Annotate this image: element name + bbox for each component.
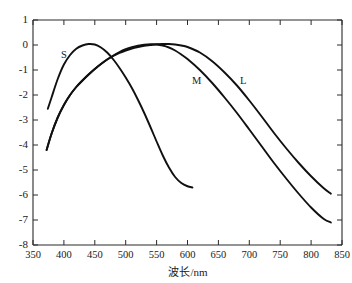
- x-tick-label: 550: [149, 249, 165, 260]
- y-tick-label: 0: [23, 38, 29, 50]
- x-tick-label: 600: [180, 249, 196, 260]
- y-tick-label: -3: [19, 113, 29, 125]
- x-tick-label: 350: [25, 249, 41, 260]
- curve-label-s: S: [61, 49, 67, 60]
- data-curves: [47, 44, 331, 223]
- y-tick-label: -4: [19, 138, 29, 150]
- axes: [33, 20, 342, 245]
- x-tick-label: 650: [211, 249, 227, 260]
- curve-l: [47, 44, 331, 194]
- x-tick-label: 500: [118, 249, 134, 260]
- curve-m: [47, 44, 331, 222]
- x-axis-title: 波长/nm: [168, 266, 208, 278]
- y-tick-label: 1: [23, 13, 29, 25]
- chart-container: 10-1-2-3-4-5-6-7-8 350400450500550600650…: [0, 0, 352, 283]
- y-tick-label: -5: [19, 163, 29, 175]
- x-tick-label: 800: [303, 249, 319, 260]
- curve-label-l: L: [240, 75, 246, 86]
- y-tick-label: -7: [19, 213, 29, 225]
- x-tick-label: 400: [56, 249, 72, 260]
- x-axis-tick-labels: 350400450500550600650700750800850: [25, 249, 350, 260]
- y-tick-label: -6: [19, 188, 29, 200]
- x-tick-label: 750: [272, 249, 288, 260]
- y-axis-tick-labels: 10-1-2-3-4-5-6-7-8: [19, 13, 29, 250]
- y-tick-label: -2: [19, 88, 28, 100]
- x-tick-label: 450: [87, 249, 103, 260]
- axis-ticks: [33, 20, 342, 245]
- spectral-sensitivity-chart: 10-1-2-3-4-5-6-7-8 350400450500550600650…: [0, 0, 352, 283]
- curve-s: [48, 44, 193, 188]
- y-tick-label: -1: [19, 63, 28, 75]
- curve-label-m: M: [192, 75, 202, 86]
- x-tick-label: 700: [241, 249, 257, 260]
- x-tick-label: 850: [334, 249, 350, 260]
